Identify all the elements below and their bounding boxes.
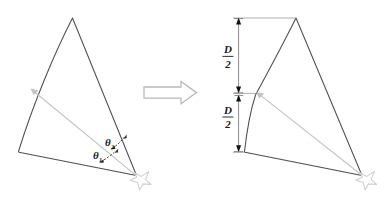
theta-2-symbol: θ [105,136,111,148]
angle-label-theta-1: θ1 [93,149,102,163]
figure-root: θ2 θ1 [0,0,386,201]
right-wedge-group: D 2 D 2 [222,18,376,190]
angle-marker-1 [99,149,118,163]
theta-1-subscript: 1 [99,157,102,163]
dim-lower-numerator: D [223,104,232,116]
left-wedge-outline [19,18,137,176]
transform-arrow-group [144,82,197,104]
dim-upper-denominator: 2 [224,58,231,70]
dim-lower-denominator: 2 [224,118,231,130]
dimension-lower [234,95,243,153]
angle-label-theta-2: θ2 [105,136,114,150]
theta-1-symbol: θ [93,149,99,161]
dimension-label-upper: D 2 [222,43,233,70]
transform-arrow-icon [144,82,197,104]
dim-upper-numerator: D [223,43,232,55]
dimension-label-lower: D 2 [222,104,233,131]
theta-2-subscript: 2 [110,144,114,150]
left-apex-star-icon [130,172,151,190]
left-wedge-group: θ2 θ1 [19,18,152,190]
right-apex-star-icon [356,172,377,190]
dimension-upper [234,18,243,94]
figure-canvas: θ2 θ1 [0,0,386,201]
